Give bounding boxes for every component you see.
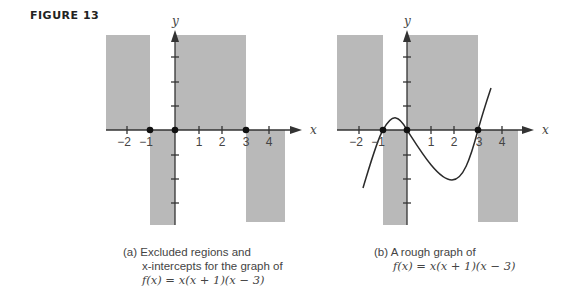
tick-label: −1 [371, 135, 385, 149]
caption-line: x-intercepts for the graph of [123, 259, 283, 273]
tick-label: 3 [476, 135, 483, 149]
caption-line: A rough graph of [391, 246, 476, 258]
tick-label: −2 [117, 135, 131, 149]
caption-b: (b) A rough graph of f(x) = x(x + 1)(x −… [374, 245, 516, 273]
tick-label: 2 [219, 135, 226, 149]
tick-label: −2 [349, 135, 363, 149]
shade-lower-left [150, 130, 175, 225]
tick-label: 3 [243, 135, 250, 149]
x-axis-label: x [310, 123, 317, 137]
tick-label: −1 [139, 135, 153, 149]
caption-a: (a) Excluded regions and x-intercepts fo… [123, 245, 283, 287]
tick-label: 2 [451, 135, 458, 149]
caption-line: Excluded regions and [140, 246, 251, 258]
y-axis-label: y [171, 14, 179, 28]
caption-prefix: (a) [123, 246, 137, 258]
tick-label: 4 [266, 135, 273, 149]
tick-label: 1 [196, 135, 203, 149]
x-axis-arrow-icon [290, 126, 302, 134]
tick-label: 1 [428, 135, 435, 149]
shade-upper-left [106, 35, 150, 130]
caption-prefix: (b) [374, 246, 388, 258]
caption-formula: f(x) = x(x + 1)(x − 3) [374, 259, 516, 273]
x-axis-label: x [542, 123, 549, 137]
y-axis-label: y [403, 14, 411, 28]
tick-label: 4 [499, 135, 506, 149]
x-axis-arrow-icon [522, 126, 534, 134]
shade-upper-middle [175, 35, 246, 130]
caption-formula: f(x) = x(x + 1)(x − 3) [123, 273, 283, 287]
